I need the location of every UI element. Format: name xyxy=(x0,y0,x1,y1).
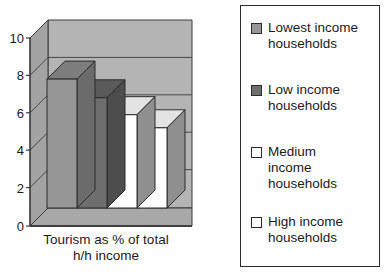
y-tick-label-8: 8 xyxy=(17,68,24,83)
y-tick-label-6: 6 xyxy=(17,106,24,121)
chart-legend: Lowest income households Low income hous… xyxy=(240,5,380,267)
legend-label-low-income-line2: households xyxy=(268,98,337,113)
y-tick-label-0: 0 xyxy=(17,219,24,232)
bar-chart: 10 8 6 4 2 0 xyxy=(0,0,212,278)
x-axis-title: Tourism as % of total h/h income xyxy=(6,232,206,264)
legend-label-low-income-line1: Low income xyxy=(268,82,340,97)
legend-label-lowest-income-line1: Lowest income xyxy=(268,20,358,35)
bar-high-income-side xyxy=(167,110,185,208)
bar-medium-income-side xyxy=(137,97,155,208)
bar-lowest-income xyxy=(47,61,95,208)
bar-lowest-income-front xyxy=(47,79,77,208)
legend-label-medium-income-line1: Medium xyxy=(268,144,316,159)
legend-swatch-high-income xyxy=(251,217,262,228)
legend-label-high-income: High income households xyxy=(268,214,343,246)
legend-label-medium-income-line3: households xyxy=(268,176,337,191)
legend-item-high-income: High income households xyxy=(251,214,375,246)
bar-lowest-income-side xyxy=(77,61,95,208)
legend-label-low-income: Low income households xyxy=(268,82,340,114)
legend-swatch-low-income xyxy=(251,85,262,96)
legend-item-low-income: Low income households xyxy=(251,82,375,114)
legend-item-lowest-income: Lowest income households xyxy=(251,20,375,52)
bar-low-income-side xyxy=(107,80,125,208)
legend-label-high-income-line2: households xyxy=(268,230,337,245)
legend-label-medium-income: Medium income households xyxy=(268,144,337,192)
legend-item-medium-income: Medium income households xyxy=(251,144,375,192)
x-axis-title-line2: h/h income xyxy=(6,248,206,264)
legend-label-lowest-income: Lowest income households xyxy=(268,20,358,52)
legend-swatch-medium-income xyxy=(251,147,262,158)
legend-label-lowest-income-line2: households xyxy=(268,36,337,51)
y-tick-label-4: 4 xyxy=(17,143,24,158)
plot-floor xyxy=(30,208,192,226)
y-tick-label-10: 10 xyxy=(10,31,24,46)
plot-side-wall xyxy=(30,20,48,226)
legend-label-medium-income-line2: income xyxy=(268,160,312,175)
legend-swatch-lowest-income xyxy=(251,23,262,34)
chart-plot-svg: 10 8 6 4 2 0 xyxy=(0,0,212,232)
x-axis-title-line1: Tourism as % of total xyxy=(6,232,206,248)
y-tick-label-2: 2 xyxy=(17,181,24,196)
legend-label-high-income-line1: High income xyxy=(268,214,343,229)
